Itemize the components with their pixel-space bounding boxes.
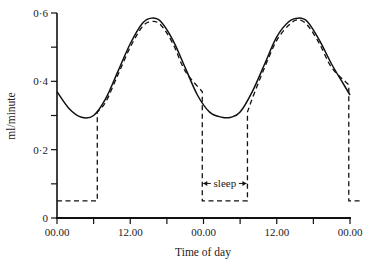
chart: 00·20·40·600.0012.0000.0012.0000.00 slee…	[0, 0, 375, 268]
x-tick-label: 00.00	[45, 226, 70, 238]
x-tick-label: 00.00	[338, 226, 363, 238]
axes: 00·20·40·600.0012.0000.0012.0000.00	[33, 7, 363, 238]
x-tick-label: 12.00	[264, 226, 289, 238]
x-tick-label: 12.00	[118, 226, 143, 238]
dashed-series-line	[57, 20, 362, 201]
arrowhead-right-icon	[242, 181, 246, 186]
y-tick-label: 0·2	[33, 144, 48, 156]
plot-area	[57, 18, 362, 201]
y-tick-label: 0	[43, 212, 49, 224]
sleep-annotation: sleep	[203, 177, 246, 189]
y-tick-label: 0·6	[33, 7, 48, 19]
sleep-label: sleep	[214, 177, 237, 189]
y-axis-title: ml/minute	[5, 92, 17, 139]
y-tick-label: 0·4	[33, 75, 48, 87]
solid-series-line	[57, 18, 350, 118]
x-axis-title: Time of day	[175, 246, 231, 259]
arrowhead-left-icon	[203, 181, 207, 186]
x-tick-label: 00.00	[191, 226, 216, 238]
